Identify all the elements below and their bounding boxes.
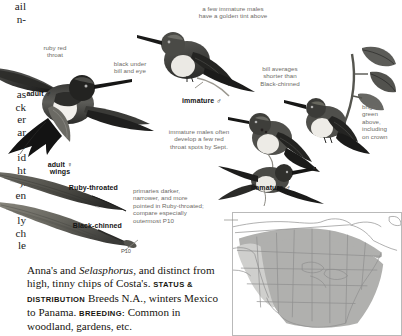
genus-italic: Selasphorus — [79, 264, 133, 276]
primaries-leader-line — [224, 206, 264, 232]
species-account-text: Anna's and Selasphorus, and distinct fro… — [27, 264, 223, 334]
plate-label-adult-male: adult ♂ — [17, 90, 51, 97]
plate-label-ruby-throated-wing: Ruby-throated — [60, 184, 118, 191]
annotation-bright-green: bright green above, including on crown — [362, 103, 402, 140]
plate-label-immature-male-upper: immature ♂ — [182, 97, 228, 104]
plate-label-adult-female-wings: adult ♀ wings — [42, 161, 78, 175]
text-line-1-plain: Anna's and — [27, 264, 79, 276]
status-distribution-text: Breeds N.A., — [85, 292, 146, 304]
immature-male-hummingbird-upper-illustration — [143, 8, 269, 104]
tiny-label-female-symbol: ♀ — [312, 165, 316, 171]
tiny-label-p10: P10 — [121, 248, 131, 254]
text-line-1-rest: , and distinct — [133, 264, 190, 276]
annotation-primaries-note: primaries darker, narrower, and more poi… — [133, 187, 229, 224]
breeding-heading: BREEDING: — [79, 309, 125, 318]
field-guide-plate-page: ailn- asckerareridht).ennglychle — [0, 0, 402, 336]
plate-label-black-chinned-wing: Black-chinned — [62, 222, 122, 229]
plate-label-immature-male-lower: immature ♂ — [251, 184, 297, 191]
clipped-text-fragment: n- — [0, 13, 26, 26]
annotation-ruby-red-throat: ruby red throat — [28, 44, 82, 59]
clipped-text-fragment: ail — [0, 0, 26, 13]
annotation-black-under-bill: black under bill and eye — [101, 60, 159, 75]
annotation-immature-red-spots: immature males often develop a few red t… — [150, 128, 248, 150]
annotation-bill-averages: bill averages shorter than Black-chinned — [248, 65, 312, 87]
annotation-golden-tint: a few immature males have a golden tint … — [183, 5, 283, 20]
adult-male-hummingbird-illustration — [0, 32, 165, 162]
